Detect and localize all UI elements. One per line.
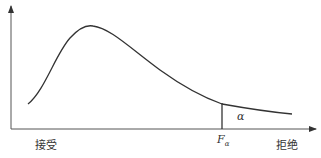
density-curve — [28, 26, 292, 114]
alpha-region-label: α — [237, 110, 244, 123]
distribution-diagram — [0, 0, 321, 158]
critical-value-label: Fα — [217, 133, 229, 148]
accept-label: 接受 — [35, 136, 57, 152]
reject-label: 拒绝 — [276, 136, 298, 152]
